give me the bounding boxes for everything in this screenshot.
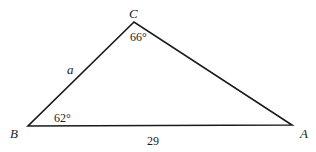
- triangle-diagram: C B A 66° 62° a 29: [0, 0, 316, 152]
- side-label-a: a: [67, 62, 74, 77]
- vertex-label-b: B: [10, 126, 18, 141]
- vertex-label-a: A: [299, 126, 308, 141]
- angle-label-c: 66°: [130, 30, 147, 44]
- vertex-label-c: C: [129, 6, 138, 21]
- angle-label-b: 62°: [54, 111, 71, 125]
- side-label-ba: 29: [147, 134, 159, 148]
